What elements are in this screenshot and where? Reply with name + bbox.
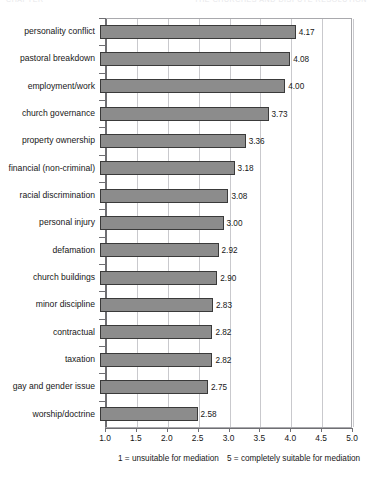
bar-row: taxation2.82 (0, 346, 373, 373)
bar-track: 4.17 (100, 18, 368, 45)
scale-legend: 1 = unsuitable for mediation 5 = complet… (105, 454, 373, 468)
bar-track: 3.36 (100, 127, 368, 154)
bar-row: defamation2.92 (0, 237, 373, 264)
bar-value-label: 2.82 (215, 328, 231, 337)
bar-row: financial (non-criminal)3.18 (0, 155, 373, 182)
y-axis-tick (99, 127, 106, 128)
bar-track: 3.73 (100, 100, 368, 127)
category-label: employment/work (0, 82, 100, 92)
y-axis-tick (99, 373, 106, 374)
y-axis-tick (99, 100, 106, 101)
x-axis-tick-label: 5.0 (346, 433, 358, 443)
y-axis-tick (99, 264, 106, 265)
bar (100, 25, 296, 39)
bar (100, 407, 198, 421)
bar-value-label: 4.08 (293, 54, 309, 63)
category-label: defamation (0, 246, 100, 256)
bar-track: 2.75 (100, 373, 368, 400)
category-label: minor discipline (0, 300, 100, 310)
bar (100, 243, 219, 257)
y-axis-tick (99, 319, 106, 320)
category-label: pastoral breakdown (0, 54, 100, 64)
category-label: personality conflict (0, 27, 100, 37)
y-axis-tick (99, 182, 106, 183)
bar-value-label: 2.92 (222, 246, 238, 255)
bar-row: worship/doctrine2.58 (0, 401, 373, 428)
x-axis-tick (290, 428, 291, 432)
x-axis-tick-label: 3.5 (254, 433, 266, 443)
x-axis-tick (167, 428, 168, 432)
bar (100, 189, 228, 203)
bar (100, 271, 217, 285)
bar (100, 134, 246, 148)
x-axis-tick-label: 4.5 (315, 433, 327, 443)
y-axis-tick (99, 401, 106, 402)
bar-track: 2.83 (100, 291, 368, 318)
bar-track: 2.92 (100, 237, 368, 264)
bar-row: personal injury3.00 (0, 209, 373, 236)
bar-row: racial discrimination3.08 (0, 182, 373, 209)
bar-value-label: 2.75 (211, 382, 227, 391)
bar-value-label: 2.58 (201, 410, 217, 419)
y-axis-tick (99, 237, 106, 238)
bar-track: 4.00 (100, 73, 368, 100)
bar-row: property ownership3.36 (0, 127, 373, 154)
y-axis-tick (99, 291, 106, 292)
y-axis-tick (99, 45, 106, 46)
bar (100, 79, 285, 93)
x-axis-tick-label: 1.0 (99, 433, 111, 443)
bar-track: 2.82 (100, 319, 368, 346)
bar-row: minor discipline2.83 (0, 291, 373, 318)
bar-track: 3.00 (100, 209, 368, 236)
category-label: taxation (0, 355, 100, 365)
bar (100, 161, 235, 175)
x-axis-tick (198, 428, 199, 432)
bar-value-label: 3.00 (227, 218, 243, 227)
bar (100, 325, 212, 339)
bar (100, 52, 290, 66)
category-label: church governance (0, 109, 100, 119)
y-axis-tick (99, 155, 106, 156)
bar-value-label: 4.00 (288, 82, 304, 91)
x-axis-tick-label: 4.0 (284, 433, 296, 443)
category-label: contractual (0, 328, 100, 338)
bar-row: church buildings2.90 (0, 264, 373, 291)
x-axis-tick-label: 3.0 (223, 433, 235, 443)
bar-value-label: 3.36 (249, 136, 265, 145)
bar-track: 4.08 (100, 45, 368, 72)
category-label: personal injury (0, 218, 100, 228)
bar-value-label: 3.73 (272, 109, 288, 118)
y-axis-tick (99, 346, 106, 347)
bar (100, 298, 213, 312)
bar-value-label: 3.08 (231, 191, 247, 200)
category-label: financial (non-criminal) (0, 164, 100, 174)
x-axis-tick-label: 2.0 (161, 433, 173, 443)
y-axis-tick (99, 209, 106, 210)
bar (100, 216, 224, 230)
bar-row: pastoral breakdown4.08 (0, 45, 373, 72)
x-axis-tick-label: 1.5 (130, 433, 142, 443)
bar-row: church governance3.73 (0, 100, 373, 127)
x-axis-tick (105, 428, 106, 432)
bar-value-label: 3.18 (238, 164, 254, 173)
bar-track: 2.82 (100, 346, 368, 373)
x-axis-tick-label: 2.5 (192, 433, 204, 443)
bar-row: employment/work4.00 (0, 73, 373, 100)
x-axis: 1.01.52.02.53.03.54.04.55.0 (105, 428, 352, 446)
bar (100, 353, 212, 367)
bar (100, 380, 208, 394)
x-axis-tick (136, 428, 137, 432)
bar-track: 2.58 (100, 401, 368, 428)
bar-chart: personality conflict4.17pastoral breakdo… (0, 0, 373, 479)
bar-track: 2.90 (100, 264, 368, 291)
bar-rows: personality conflict4.17pastoral breakdo… (0, 18, 373, 428)
x-axis-tick (352, 428, 353, 432)
scale-min-caption: 1 = unsuitable for mediation (118, 454, 219, 463)
bar-row: gay and gender issue2.75 (0, 373, 373, 400)
bar-track: 3.18 (100, 155, 368, 182)
bar-row: personality conflict4.17 (0, 18, 373, 45)
bar-value-label: 2.82 (215, 355, 231, 364)
x-axis-tick (229, 428, 230, 432)
category-label: racial discrimination (0, 191, 100, 201)
bar-value-label: 4.17 (299, 27, 315, 36)
